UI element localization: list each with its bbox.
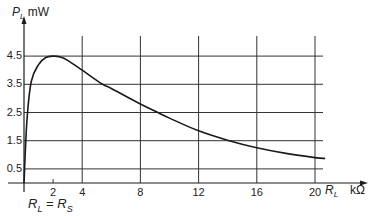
annotation-equals: =	[46, 196, 54, 211]
power-curve	[24, 56, 325, 183]
y-tick-label: 1.5	[0, 134, 22, 146]
y-tick-label: 2.5	[0, 106, 22, 118]
y-axis-unit: mW	[28, 5, 49, 19]
x-tick-label: 8	[130, 186, 150, 198]
power-vs-load-chart	[0, 0, 371, 216]
axes	[8, 16, 368, 192]
x-axis-subscript: L	[334, 190, 338, 199]
x-tick-label: 12	[189, 186, 209, 198]
y-axis-symbol: P	[12, 5, 20, 19]
grid-lines	[24, 36, 323, 183]
y-axis-subscript: L	[20, 12, 24, 21]
x-tick-label: 20	[305, 186, 325, 198]
y-axis-title: PL mW	[12, 6, 49, 23]
max-power-annotation: RL = RS	[28, 198, 73, 215]
annotation-rl-sub: L	[37, 204, 42, 214]
x-axis-unit: kΩ	[350, 184, 365, 196]
x-tick-label: 16	[247, 186, 267, 198]
y-tick-label: 3.5	[0, 77, 22, 89]
annotation-rs: R	[57, 196, 66, 211]
annotation-rs-sub: S	[67, 204, 73, 214]
annotation-rl: R	[28, 196, 37, 211]
x-axis-symbol: R	[325, 183, 334, 197]
y-tick-label: 4.5	[0, 49, 22, 61]
y-tick-label: 0.5	[0, 162, 22, 174]
x-tick-label: 4	[72, 186, 92, 198]
x-axis-title: RL	[325, 184, 338, 201]
